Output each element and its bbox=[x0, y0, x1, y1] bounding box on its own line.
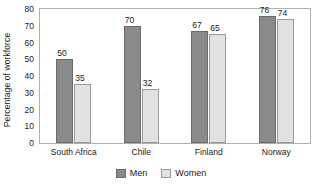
x-tick-label-chile: Chile bbox=[132, 147, 151, 158]
x-tick-label-norway: Norway bbox=[262, 147, 291, 158]
legend-entry-women[interactable]: Women bbox=[161, 168, 206, 178]
bar-value-label: 70 bbox=[125, 16, 134, 25]
y-axis-tick-labels: 01020304050607080 bbox=[14, 8, 38, 144]
y-tick-label: 50 bbox=[14, 55, 34, 64]
y-tick-label: 20 bbox=[14, 105, 34, 114]
legend-label: Men bbox=[130, 168, 148, 178]
y-axis-title: Percentage of workforce bbox=[0, 0, 14, 160]
bar-women-south-africa bbox=[74, 84, 91, 143]
bar-value-label: 50 bbox=[57, 49, 66, 58]
bar-women-norway bbox=[277, 19, 294, 143]
bar-group: 6765 bbox=[191, 9, 226, 143]
y-tick-label: 40 bbox=[14, 72, 34, 81]
y-tick-label: 70 bbox=[14, 21, 34, 30]
bar-men-norway bbox=[259, 16, 276, 143]
bar-women-finland bbox=[209, 34, 226, 143]
bar-value-label: 74 bbox=[278, 9, 287, 18]
legend-entry-men[interactable]: Men bbox=[116, 168, 148, 178]
y-tick-label: 30 bbox=[14, 88, 34, 97]
plot-area: 5035703267657674 bbox=[40, 9, 310, 143]
women-swatch bbox=[161, 169, 171, 178]
chart-legend: MenWomen bbox=[0, 168, 322, 178]
bar-group: 5035 bbox=[56, 9, 91, 143]
y-tick-label: 0 bbox=[14, 139, 34, 148]
x-tick-label-south-africa: South Africa bbox=[51, 147, 97, 158]
bar-men-finland bbox=[191, 31, 208, 143]
bar-group: 7674 bbox=[259, 9, 294, 143]
bar-value-label: 76 bbox=[260, 6, 269, 15]
bar-women-chile bbox=[142, 89, 159, 143]
bar-men-chile bbox=[124, 26, 141, 143]
bar-value-label: 35 bbox=[75, 74, 84, 83]
y-axis-title-text: Percentage of workforce bbox=[2, 33, 12, 127]
bar-chart: Percentage of workforce 0102030405060708… bbox=[0, 0, 322, 186]
men-swatch bbox=[116, 169, 126, 178]
bar-value-label: 32 bbox=[143, 79, 152, 88]
y-tick-label: 80 bbox=[14, 5, 34, 14]
bar-men-south-africa bbox=[56, 59, 73, 143]
x-tick-label-finland: Finland bbox=[195, 147, 223, 158]
bar-value-label: 65 bbox=[210, 24, 219, 33]
y-tick-label: 10 bbox=[14, 122, 34, 131]
x-axis-tick-labels: South AfricaChileFinlandNorway bbox=[40, 147, 310, 161]
bar-group: 7032 bbox=[124, 9, 159, 143]
bar-value-label: 67 bbox=[192, 21, 201, 30]
legend-label: Women bbox=[175, 168, 206, 178]
y-tick-label: 60 bbox=[14, 38, 34, 47]
